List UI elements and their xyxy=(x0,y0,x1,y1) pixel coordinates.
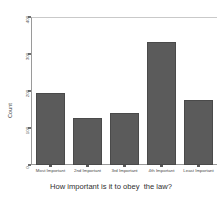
y-tick-label: 200 xyxy=(23,87,32,101)
bar xyxy=(110,113,139,165)
x-tick-label: 4th Important xyxy=(149,168,175,174)
y-tick-label: 400 xyxy=(23,13,32,27)
bar xyxy=(36,93,65,165)
bar-slot xyxy=(143,17,180,165)
bar-slot xyxy=(32,17,69,165)
bar-slot xyxy=(69,17,106,165)
x-tick-slot: 4th Important xyxy=(143,165,180,179)
bar-slot xyxy=(180,17,217,165)
x-tick-slot: Most Important xyxy=(32,165,69,179)
x-tick-mark xyxy=(197,165,200,167)
bar xyxy=(147,42,176,165)
x-axis-title: How important is it to obey the law? xyxy=(0,182,222,191)
x-tick-label: Least Important xyxy=(183,168,214,174)
y-tick-label: 300 xyxy=(23,50,32,64)
x-tick-mark xyxy=(123,165,126,167)
y-tick-label: 0 xyxy=(23,161,32,175)
x-tick-mark xyxy=(86,165,89,167)
x-axis: Most Important 2nd Important 3rd Importa… xyxy=(32,165,217,179)
x-tick-slot: 2nd Important xyxy=(69,165,106,179)
bar-slot xyxy=(106,17,143,165)
x-tick-slot: 3rd Important xyxy=(106,165,143,179)
bar-chart: 400 300 200 100 0 Count xyxy=(0,0,222,198)
y-tick-label: 100 xyxy=(23,124,32,138)
x-tick-label: Most Important xyxy=(36,168,65,174)
y-axis-title: Count xyxy=(7,103,13,118)
x-tick-slot: Least Important xyxy=(180,165,217,179)
x-tick-label: 3rd Important xyxy=(111,168,137,174)
bar xyxy=(184,100,213,165)
bar-series xyxy=(32,17,217,165)
bar xyxy=(73,118,102,165)
y-axis: 400 300 200 100 0 xyxy=(0,0,31,166)
x-tick-mark xyxy=(49,165,52,167)
x-tick-label: 2nd Important xyxy=(74,168,101,174)
x-tick-mark xyxy=(160,165,163,167)
